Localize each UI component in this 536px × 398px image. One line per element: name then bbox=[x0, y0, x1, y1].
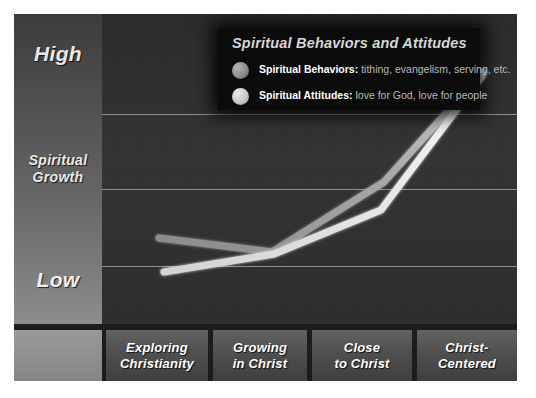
x-axis-segment-label-line1: Close bbox=[334, 340, 389, 356]
y-axis-band: High Spiritual Growth Low bbox=[14, 14, 102, 324]
legend-item-label: Spiritual Behaviors bbox=[259, 63, 355, 75]
legend-panel: Spiritual Behaviors and Attitudes Spirit… bbox=[218, 28, 480, 110]
x-axis-segment-label-line1: Christ- bbox=[438, 340, 496, 356]
x-axis-segment-label-line2: to Christ bbox=[334, 356, 389, 372]
x-axis-row: Exploring Christianity Growing in Christ… bbox=[14, 330, 517, 381]
x-axis-segment-label: Christ- Centered bbox=[438, 340, 496, 372]
x-axis-segment-label: Exploring Christianity bbox=[120, 340, 194, 372]
x-axis-segment-christ-centered: Christ- Centered bbox=[417, 330, 517, 381]
legend-item-detail: love for God, love for people bbox=[355, 89, 487, 101]
legend-dot-behaviors-icon bbox=[232, 62, 249, 79]
y-axis-title-line2: Growth bbox=[14, 169, 102, 186]
plot-area: Spiritual Behaviors and Attitudes Spirit… bbox=[102, 14, 517, 324]
x-axis-segment-label-line2: Christianity bbox=[120, 356, 194, 372]
y-axis-label-high: High bbox=[14, 42, 102, 66]
x-axis-segment-label: Growing in Christ bbox=[233, 340, 288, 372]
legend-item-detail: tithing, evangelism, serving, etc. bbox=[361, 63, 510, 75]
y-axis-title: Spiritual Growth bbox=[14, 152, 102, 186]
x-axis-segment-close-to-christ: Close to Christ bbox=[312, 330, 412, 381]
legend-item-text: Spiritual Attitudes: love for God, love … bbox=[259, 89, 487, 101]
y-axis-title-line1: Spiritual bbox=[14, 152, 102, 169]
y-axis-label-low: Low bbox=[14, 268, 102, 292]
x-axis-segment-exploring-christianity: Exploring Christianity bbox=[106, 330, 208, 381]
chart-figure: High Spiritual Growth Low bbox=[14, 14, 517, 381]
legend-item-text: Spiritual Behaviors: tithing, evangelism… bbox=[259, 63, 511, 75]
legend-title: Spiritual Behaviors and Attitudes bbox=[232, 35, 467, 51]
legend-dot-attitudes-icon bbox=[232, 88, 249, 105]
legend-item-separator: : bbox=[355, 63, 359, 75]
x-axis-segment-growing-in-christ: Growing in Christ bbox=[213, 330, 307, 381]
x-axis-segment-label-line2: Centered bbox=[438, 356, 496, 372]
x-axis-segment-label: Close to Christ bbox=[334, 340, 389, 372]
x-axis-segment-label-line1: Growing bbox=[233, 340, 288, 356]
legend-item-separator: : bbox=[349, 89, 353, 101]
legend-item-label: Spiritual Attitudes bbox=[259, 89, 349, 101]
x-axis-corner-spacer bbox=[14, 330, 102, 381]
x-axis-segment-label-line1: Exploring bbox=[120, 340, 194, 356]
x-axis-segment-label-line2: in Christ bbox=[233, 356, 288, 372]
